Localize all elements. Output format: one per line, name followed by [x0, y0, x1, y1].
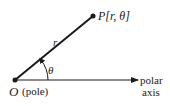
axis-label-line2: axis	[142, 86, 160, 98]
point-p	[91, 14, 96, 19]
pole-label: (pole)	[22, 85, 49, 98]
angle-arc	[41, 60, 48, 80]
polar-diagram: P[r, θ] r θ O (pole) polar axis	[0, 0, 170, 106]
point-label: P[r, θ]	[97, 9, 130, 23]
axis-label-line1: polar	[140, 74, 163, 86]
radius-label: r	[53, 36, 58, 48]
pole-point	[13, 78, 18, 83]
radius-line	[15, 16, 93, 80]
pole-letter: O	[9, 84, 19, 99]
angle-label: θ	[48, 64, 54, 76]
